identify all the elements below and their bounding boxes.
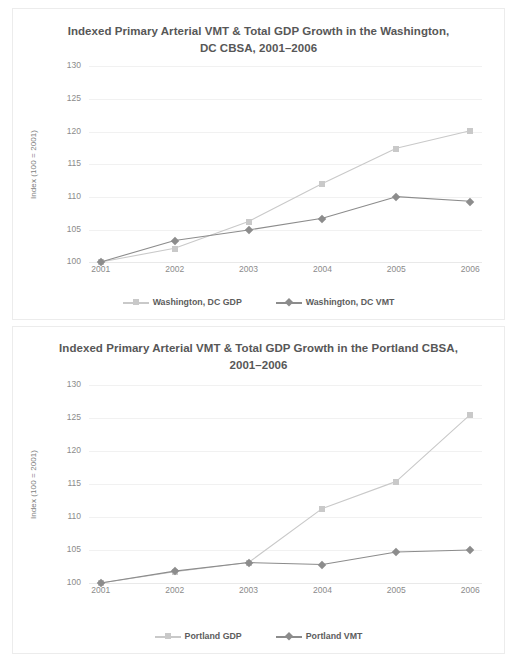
legend-label: Portland VMT [306,631,363,641]
gridline [89,262,482,263]
y-tick-label: 120 [53,126,81,136]
data-point-2006[interactable] [467,412,473,418]
axis-washington: 1001051101151201251302001200220032004200… [53,66,482,262]
x-tick-label: 2001 [91,264,110,274]
y-axis-label-washington: Index (100 = 2001) [27,66,41,262]
y-tick-label: 110 [53,511,81,521]
x-tick-label: 2001 [91,585,110,595]
legend-item-washington-gdp[interactable]: Washington, DC GDP [123,297,242,307]
marker-layer [89,385,482,583]
x-tick-label: 2005 [387,264,406,274]
data-point-2006[interactable] [467,128,473,134]
legend-key-diamond-icon [276,297,302,307]
x-tick-label: 2006 [461,585,480,595]
data-point-2006[interactable] [466,197,474,205]
x-tick-label: 2004 [313,264,332,274]
y-tick-label: 110 [53,191,81,201]
legend-portland: Portland GDP Portland VMT [13,631,504,641]
x-tick-label: 2003 [239,585,258,595]
legend-label: Washington, DC GDP [153,297,242,307]
legend-key-square-icon [155,631,181,641]
data-point-2005[interactable] [392,548,400,556]
data-point-2003[interactable] [246,219,252,225]
data-point-2006[interactable] [466,546,474,554]
y-tick-label: 130 [53,379,81,389]
legend-item-portland-vmt[interactable]: Portland VMT [276,631,363,641]
data-point-2002[interactable] [170,237,178,245]
y-tick-label: 115 [53,478,81,488]
legend-washington: Washington, DC GDP Washington, DC VMT [13,297,504,307]
data-point-2005[interactable] [393,146,399,152]
y-tick-label: 125 [53,412,81,422]
y-tick-label: 100 [53,256,81,266]
data-point-2004[interactable] [319,506,325,512]
y-tick-label: 115 [53,158,81,168]
x-tick-label: 2003 [239,264,258,274]
data-point-2004[interactable] [318,561,326,569]
legend-label: Washington, DC VMT [306,297,395,307]
y-tick-label: 100 [53,577,81,587]
data-point-2004[interactable] [319,181,325,187]
legend-label: Portland GDP [185,631,242,641]
plot-area-portland: Index (100 = 2001) 100105110115120125130… [13,385,504,583]
chart-panel-washington: Indexed Primary Arterial VMT & Total GDP… [12,8,505,320]
x-tick-label: 2002 [165,585,184,595]
chart-title-portland: Indexed Primary Arterial VMT & Total GDP… [13,327,504,373]
chart-panel-portland: Indexed Primary Arterial VMT & Total GDP… [12,326,505,654]
legend-item-washington-vmt[interactable]: Washington, DC VMT [276,297,395,307]
x-axis-labels: 200120022003200420052006 [89,264,482,278]
data-point-2002[interactable] [172,246,178,252]
y-tick-label: 125 [53,93,81,103]
y-axis-label-portland: Index (100 = 2001) [27,385,41,583]
data-point-2005[interactable] [393,479,399,485]
x-tick-label: 2005 [387,585,406,595]
marker-layer [89,66,482,262]
x-tick-label: 2002 [165,264,184,274]
x-axis-labels: 200120022003200420052006 [89,585,482,599]
data-point-2004[interactable] [318,214,326,222]
legend-key-square-icon [123,297,149,307]
y-tick-label: 120 [53,445,81,455]
y-tick-label: 105 [53,224,81,234]
chart-title-washington: Indexed Primary Arterial VMT & Total GDP… [13,9,504,56]
series-layer [89,385,482,583]
gridline [89,583,482,584]
plot-area-washington: Index (100 = 2001) 100105110115120125130… [13,66,504,262]
data-point-2005[interactable] [392,193,400,201]
legend-key-diamond-icon [276,631,302,641]
y-tick-label: 105 [53,544,81,554]
series-layer [89,66,482,262]
data-point-2003[interactable] [244,226,252,234]
axis-portland: 1001051101151201251302001200220032004200… [53,385,482,583]
x-tick-label: 2006 [461,264,480,274]
legend-item-portland-gdp[interactable]: Portland GDP [155,631,242,641]
x-tick-label: 2004 [313,585,332,595]
y-tick-label: 130 [53,60,81,70]
figure-page: Indexed Primary Arterial VMT & Total GDP… [0,0,517,665]
